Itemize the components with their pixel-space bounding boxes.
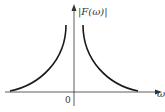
x-axis-label: ω xyxy=(157,88,165,99)
y-axis-label: |F(ω)| xyxy=(78,6,108,18)
y-axis-arrow-icon xyxy=(72,4,77,11)
spectrum-diagram: |F(ω)| ω 0 xyxy=(0,0,165,112)
left-branch-curve xyxy=(10,25,66,91)
right-branch-curve xyxy=(83,25,138,91)
origin-label: 0 xyxy=(65,95,71,105)
